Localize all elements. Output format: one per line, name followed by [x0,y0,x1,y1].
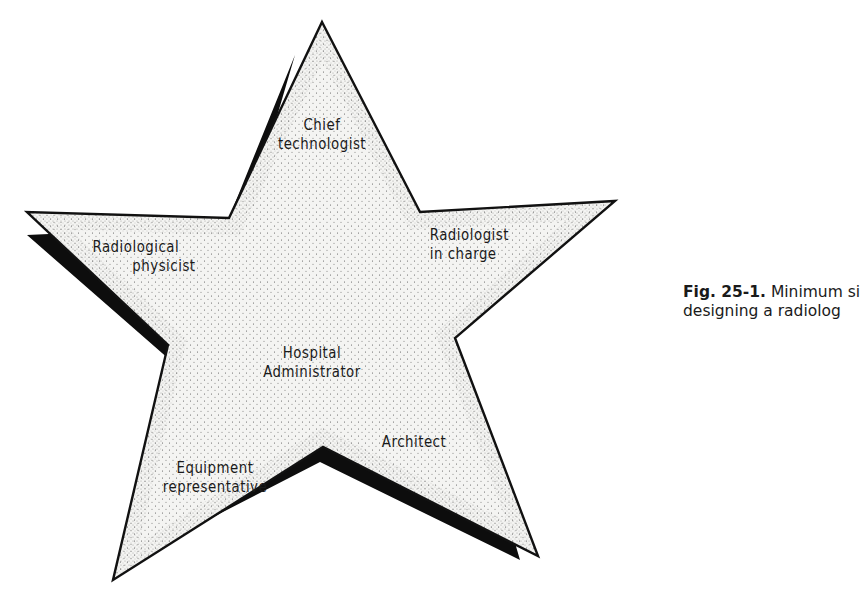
caption-line-1: Minimum si [771,283,860,301]
label-hospital-administrator: Hospital Administrator [259,344,366,382]
label-radiological-physicist: Radiological physicist [92,238,195,276]
label-equipment-representative: Equipment representative [159,459,271,497]
figure-number: Fig. 25-1. [683,283,766,301]
caption-line-2: designing a radiolog [683,302,860,321]
label-chief-technologist: Chief technologist [277,116,366,154]
figure-caption: Fig. 25-1. Minimum si designing a radiol… [683,283,860,321]
label-radiologist-in-charge: Radiologist in charge [430,226,525,264]
label-architect: Architect [371,433,457,452]
